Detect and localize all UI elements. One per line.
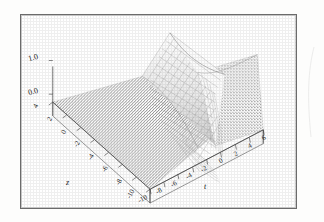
y-tick-label-4: -4 <box>86 153 96 162</box>
figure-frame: 1.0 0.0 4 2 0 -2 -4 -6 -8 -10 z -10 -8 -… <box>20 14 297 209</box>
axis-lines <box>53 66 263 203</box>
x-axis-title: t <box>204 182 206 191</box>
x-tick-label-7: 4 <box>246 142 253 151</box>
x-axis-line <box>150 130 263 189</box>
y-axis-ticks <box>49 102 150 192</box>
central-ridge-surface <box>142 33 224 146</box>
plot-base-box <box>53 102 263 203</box>
scan-artifact <box>304 45 318 140</box>
x-tick-label-1: -8 <box>154 186 163 196</box>
y-axis-title: z <box>66 178 69 187</box>
x-tick-label-3: -4 <box>184 171 193 181</box>
y-tick-label-0: 4 <box>31 103 40 110</box>
x-axis-ticks <box>150 130 264 194</box>
x-tick-label-6: 2 <box>232 150 239 159</box>
z-axis-ticks <box>49 61 53 95</box>
y-axis-line <box>53 102 150 189</box>
scan-grain-overlay <box>21 15 296 208</box>
ridge-mesh-lines <box>142 33 224 172</box>
y-tick-label-1: 2 <box>45 116 54 123</box>
y-tick-label-3: -2 <box>72 140 82 149</box>
ridge-crest <box>142 33 257 148</box>
x-tick-label-8: 6 <box>260 134 267 143</box>
y-tick-label-2: 0 <box>59 129 68 136</box>
surface-plot <box>21 15 296 208</box>
x-tick-label-4: -2 <box>199 164 208 174</box>
right-plateau-surface <box>198 55 264 146</box>
trough-mesh-lines <box>180 72 223 182</box>
figure-canvas: 1.0 0.0 4 2 0 -2 -4 -6 -8 -10 z -10 -8 -… <box>0 0 324 222</box>
x-tick-label-2: -6 <box>169 179 178 189</box>
z-tick-label-1: 1.0 <box>27 52 39 63</box>
z-tick-label-0: 0.0 <box>27 86 39 97</box>
y-tick-label-5: -6 <box>100 165 110 174</box>
left-plateau-surface <box>53 76 216 189</box>
x-tick-label-0: -10 <box>137 193 149 204</box>
y-tick-label-6: -8 <box>114 178 124 187</box>
y-tick-label-7: -10 <box>125 188 136 200</box>
x-tick-label-5: 0 <box>217 157 224 166</box>
